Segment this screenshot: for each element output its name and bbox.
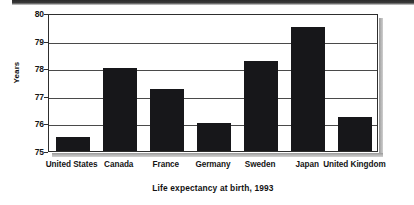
bar [103, 68, 137, 151]
x-axis-tick-label: United Kingdom [323, 160, 386, 169]
y-axis-tick-label: 75 [22, 148, 44, 157]
plot-frame-shadow-bottom [52, 153, 383, 157]
x-axis-title: Life expectancy at birth, 1993 [48, 183, 378, 193]
bar-chart-figure: Years 757677787980 United StatesCanadaFr… [0, 0, 414, 205]
y-axis-tick-mark [44, 152, 48, 153]
y-axis-tick-label: 77 [22, 93, 44, 102]
bars-group [49, 15, 377, 151]
bar [244, 61, 278, 151]
y-axis-tick-label: 78 [22, 65, 44, 74]
bar [291, 27, 325, 151]
y-axis-tick-label: 79 [22, 38, 44, 47]
bar [150, 89, 184, 151]
bar [338, 117, 372, 152]
y-axis-tick-label: 76 [22, 120, 44, 129]
y-axis-ticks: 757677787980 [18, 14, 44, 152]
bar [56, 137, 90, 151]
plot-frame-shadow-right [379, 18, 383, 156]
x-axis-category-labels: United StatesCanadaFranceGermanySwedenJa… [48, 160, 378, 174]
bar [197, 123, 231, 151]
plot-area [48, 14, 378, 152]
y-axis-tick-label: 80 [22, 10, 44, 19]
scan-artifact-band [0, 0, 414, 5]
